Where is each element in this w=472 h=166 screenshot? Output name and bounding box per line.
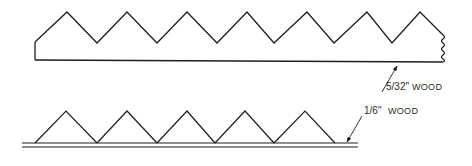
label-bottom: 1/6" WOOD	[364, 105, 418, 116]
bottom-piece	[22, 111, 358, 147]
label-top: 5/32" WOOD	[386, 81, 442, 92]
break-line-icon	[442, 35, 445, 62]
triangle-3	[157, 111, 215, 143]
arrow-to-bottom-piece	[347, 116, 362, 142]
top-piece	[35, 12, 445, 62]
top-label-fraction: 5/32"	[386, 81, 409, 92]
triangle-5	[274, 111, 335, 143]
technical-drawing: 5/32" WOOD 1/6" WOOD	[0, 0, 472, 166]
triangle-2	[97, 111, 157, 143]
triangle-row	[35, 111, 335, 143]
triangle-4	[215, 111, 274, 143]
leader-arrows	[347, 66, 397, 142]
top-label-material: WOOD	[412, 82, 442, 92]
triangle-1	[35, 111, 97, 143]
top-piece-bottom-edge	[35, 60, 443, 62]
bottom-label-material: WOOD	[388, 106, 418, 116]
top-piece-serrated-edge	[35, 12, 443, 43]
bottom-label-fraction: 1/6"	[364, 105, 382, 116]
